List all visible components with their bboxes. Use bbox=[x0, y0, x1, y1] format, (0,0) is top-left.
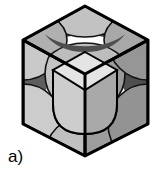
figure-container: a) bbox=[0, 0, 166, 177]
figure-label: a) bbox=[8, 148, 23, 165]
unit-cell-illustration bbox=[0, 0, 166, 177]
